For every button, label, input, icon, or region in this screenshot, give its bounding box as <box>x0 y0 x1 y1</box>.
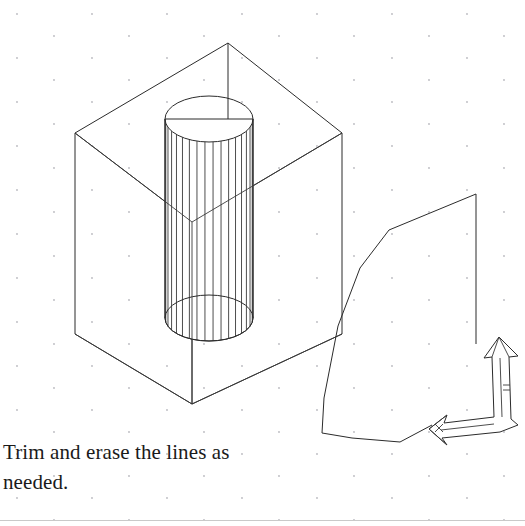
grid-dot <box>91 409 93 411</box>
box-bottom-face-edge-right-overlay <box>192 334 342 404</box>
grid-dot <box>91 13 93 15</box>
grid-dot <box>466 365 468 367</box>
drawing-canvas: Trim and erase the lines as needed. <box>0 0 525 526</box>
grid-dot <box>316 497 318 499</box>
grid-dot <box>391 321 393 323</box>
grid-dot <box>353 123 355 125</box>
grid-dot <box>428 475 430 477</box>
grid-dot <box>278 431 280 433</box>
grid-dot <box>278 343 280 345</box>
caption-line-2: needed. <box>3 467 333 497</box>
grid-dot <box>503 35 505 37</box>
grid-dot <box>91 321 93 323</box>
grid-dot <box>428 343 430 345</box>
grid-dot <box>203 343 205 345</box>
grid-dot <box>128 343 130 345</box>
grid-dot <box>353 387 355 389</box>
grid-dot <box>466 321 468 323</box>
grid-dot <box>466 409 468 411</box>
cylinder-body <box>165 96 253 341</box>
grid-dot <box>391 233 393 235</box>
grid-dot <box>391 145 393 147</box>
grid-dot <box>128 211 130 213</box>
grid-dot <box>391 409 393 411</box>
grid-dot <box>391 365 393 367</box>
grid-dot <box>91 57 93 59</box>
grid-dot <box>466 233 468 235</box>
grid-dot <box>428 211 430 213</box>
grid-dot <box>466 497 468 499</box>
grid-dot <box>91 365 93 367</box>
grid-dot <box>203 431 205 433</box>
grid-dot <box>503 79 505 81</box>
grid-dot <box>16 13 18 15</box>
grid-dot <box>428 431 430 433</box>
caption-line-1: Trim and erase the lines as <box>3 437 333 467</box>
grid-dot <box>316 13 318 15</box>
grid-dot <box>278 211 280 213</box>
grid-dot <box>16 57 18 59</box>
grid-dot <box>166 365 168 367</box>
grid-dot <box>91 497 93 499</box>
bottom-divider <box>0 520 525 521</box>
grid-dot <box>466 189 468 191</box>
grid-dot <box>241 497 243 499</box>
grid-dot <box>278 255 280 257</box>
grid-dot <box>466 277 468 279</box>
grid-dot <box>128 387 130 389</box>
grid-dot <box>428 387 430 389</box>
grid-dot <box>53 343 55 345</box>
grid-dot <box>353 431 355 433</box>
grid-dot <box>278 167 280 169</box>
grid-dot <box>166 13 168 15</box>
grid-dot <box>466 453 468 455</box>
grid-dot <box>391 57 393 59</box>
grid-dot <box>316 57 318 59</box>
grid-dot <box>91 233 93 235</box>
grid-dot <box>391 453 393 455</box>
grid-dot <box>503 255 505 257</box>
grid-dot <box>16 233 18 235</box>
grid-dot <box>91 189 93 191</box>
grid-dot <box>278 299 280 301</box>
grid-dot <box>391 497 393 499</box>
grid-dot <box>91 101 93 103</box>
grid-dot <box>278 79 280 81</box>
profile-outline <box>322 194 476 442</box>
grid-dot <box>53 35 55 37</box>
grid-dot <box>16 497 18 499</box>
grid-dot <box>316 145 318 147</box>
grid-dot <box>53 431 55 433</box>
grid-dot <box>53 299 55 301</box>
grid-dot <box>166 101 168 103</box>
grid-dot <box>203 79 205 81</box>
grid-dot <box>53 79 55 81</box>
grid-dot <box>241 409 243 411</box>
grid-dot <box>16 409 18 411</box>
grid-dot <box>316 321 318 323</box>
grid-dot <box>128 79 130 81</box>
grid-dot <box>316 365 318 367</box>
cylinder-side-surface <box>165 119 253 341</box>
isometric-box-with-cylinder-figure <box>75 43 342 404</box>
grid-dot <box>91 277 93 279</box>
grid-dot <box>503 475 505 477</box>
grid-dot <box>353 167 355 169</box>
grid-dot <box>353 79 355 81</box>
grid-dot <box>53 123 55 125</box>
grid-dot <box>353 35 355 37</box>
grid-dot <box>391 13 393 15</box>
grid-dot <box>278 123 280 125</box>
grid-dot <box>128 167 130 169</box>
grid-dot <box>166 409 168 411</box>
grid-dot <box>316 101 318 103</box>
grid-dot <box>53 167 55 169</box>
grid-dot <box>166 497 168 499</box>
grid-dot <box>353 343 355 345</box>
grid-dot <box>128 299 130 301</box>
grid-dot <box>428 35 430 37</box>
box-bottom-face-edges <box>75 334 342 404</box>
grid-dot <box>353 211 355 213</box>
grid-dot <box>316 189 318 191</box>
grid-dot <box>391 277 393 279</box>
